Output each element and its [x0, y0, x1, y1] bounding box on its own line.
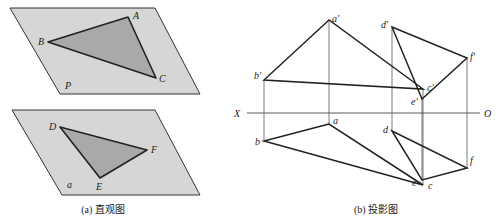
label-d: d — [383, 124, 389, 135]
axis-label-x: X — [233, 108, 241, 119]
label-d-prime: d' — [381, 19, 389, 30]
point-label-a-upper: A — [132, 10, 140, 21]
label-b: b — [255, 136, 260, 147]
pictorial-view: A B C P D E F a (a) 直观图 — [10, 8, 200, 216]
point-label-c-upper: C — [159, 73, 166, 84]
label-e-prime: e' — [411, 96, 418, 107]
plane-label-a: a — [67, 179, 72, 190]
triangle-abc-horizontal — [264, 124, 423, 185]
label-f-prime: f' — [470, 51, 476, 62]
label-c: c — [428, 180, 433, 191]
point-label-d-upper: D — [48, 121, 57, 132]
caption-a: (a) 直观图 — [81, 203, 125, 216]
orthographic-projection-figure: A B C P D E F a (a) 直观图 X O a' — [0, 0, 496, 219]
label-c-prime: c' — [427, 82, 434, 93]
label-a-prime: a' — [332, 13, 340, 24]
label-b-prime: b' — [254, 70, 262, 81]
point-label-b-upper: B — [38, 36, 44, 47]
caption-b: (b) 投影图 — [354, 203, 398, 216]
label-f: f — [470, 155, 474, 166]
projection-view: X O a' b' c' a b c d' e' f' d e f (b) 投影… — [233, 13, 491, 216]
axis-label-o: O — [484, 108, 491, 119]
point-label-e-upper: E — [95, 181, 102, 192]
label-e: e — [412, 177, 417, 188]
label-a: a — [333, 115, 338, 126]
point-label-f-upper: F — [150, 144, 158, 155]
plane-label-p: P — [64, 80, 71, 91]
